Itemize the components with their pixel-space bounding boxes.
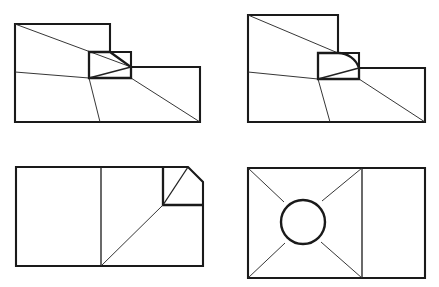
figure-sheet xyxy=(0,0,439,287)
drawing-canvas xyxy=(0,0,439,287)
